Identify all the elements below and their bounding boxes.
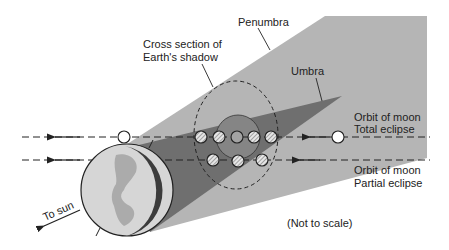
moon-unshadowed	[332, 131, 344, 143]
lunar-eclipse-diagram: Penumbra Cross section of Earth's shadow…	[0, 0, 449, 250]
penumbra-label: Penumbra	[238, 16, 290, 28]
cross-section-label-line2: Earth's shadow	[143, 51, 218, 63]
penumbra-leader	[258, 28, 270, 50]
moon-penumbral	[256, 154, 268, 166]
orbit-partial-label-line1: Orbit of moon	[354, 164, 421, 176]
cross-section-label-line1: Cross section of	[143, 38, 223, 50]
moon-partial	[232, 155, 244, 167]
umbra-label: Umbra	[291, 65, 325, 77]
moons-partial-row	[207, 154, 268, 167]
not-to-scale-note: (Not to scale)	[287, 217, 352, 229]
moon-penumbral	[195, 131, 207, 143]
moon-total	[231, 131, 243, 143]
moon-partial	[248, 131, 260, 143]
orbit-total-label-line1: Orbit of moon	[354, 111, 421, 123]
orbit-total-label-line2: Total eclipse	[354, 123, 415, 135]
moon-unshadowed	[118, 131, 130, 143]
orbit-partial-label-line2: Partial eclipse	[354, 177, 422, 189]
moon-partial	[213, 131, 225, 143]
cross-section-leader	[202, 64, 213, 87]
moon-penumbral	[265, 131, 277, 143]
moon-penumbral	[207, 154, 219, 166]
